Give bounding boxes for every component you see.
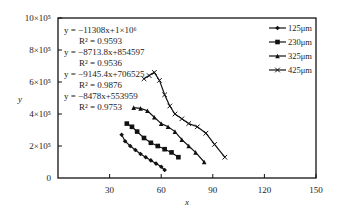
data-point-square [135, 129, 140, 134]
legend-label: 425μm [288, 65, 312, 75]
x-tick-label: 60 [157, 185, 167, 195]
y-tick-label: 2×10⁵ [29, 141, 51, 151]
legend-label: 325μm [288, 51, 312, 61]
x-tick-label: 90 [208, 185, 218, 195]
data-point-square [142, 136, 147, 141]
fit-equation: y = −9145.4x+706525 [64, 69, 145, 79]
x-tick-label: 150 [309, 185, 323, 195]
y-tick-label: 10×10⁵ [25, 13, 51, 23]
data-point-square [162, 147, 167, 152]
legend-marker-diamond [275, 26, 280, 31]
legend-label: 230μm [288, 37, 312, 47]
data-point-square [149, 141, 154, 146]
data-point-diamond [119, 133, 124, 138]
legend-label: 125μm [288, 23, 312, 33]
data-point-square [130, 125, 135, 130]
fit-equation: y = −8478x+553959 [64, 91, 138, 101]
data-point-square [155, 144, 160, 149]
x-tick-label: 30 [105, 185, 115, 195]
chart: 30609012015002×10⁵4×10⁵6×10⁵8×10⁵10×10⁵x… [0, 0, 339, 221]
y-tick-label: 0 [47, 173, 52, 183]
series-line [134, 108, 205, 162]
x-axis-label: x [184, 197, 189, 207]
fit-r-squared: R² = 0.9536 [79, 58, 123, 68]
y-tick-label: 8×10⁵ [29, 45, 51, 55]
fit-r-squared: R² = 0.9753 [79, 102, 123, 112]
data-point-square [125, 121, 130, 126]
fit-equation: y = −8713.8x+854597 [64, 47, 145, 57]
data-point-square [169, 150, 174, 155]
y-tick-label: 4×10⁵ [29, 109, 51, 119]
fit-r-squared: R² = 0.9593 [79, 36, 123, 46]
data-point-triangle [166, 125, 171, 130]
legend-marker-square [275, 40, 280, 45]
x-tick-label: 120 [258, 185, 272, 195]
data-point-square [176, 155, 181, 160]
y-axis-label: y [17, 94, 22, 104]
y-tick-label: 6×10⁵ [29, 77, 51, 87]
fit-r-squared: R² = 0.9876 [79, 80, 123, 90]
fit-equation: y = −11308x+1×10⁶ [64, 25, 137, 35]
